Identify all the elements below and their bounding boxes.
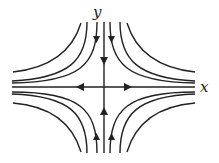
arrow-up-icon xyxy=(108,133,115,140)
trajectory-mid-tl xyxy=(12,22,87,81)
saddle-phase-portrait: y x xyxy=(0,0,219,163)
trajectory-mid-tr xyxy=(120,22,195,81)
trajectory-outer-bl xyxy=(13,103,81,152)
arrow-down-icon xyxy=(108,36,115,43)
y-axis-label: y xyxy=(92,3,102,21)
arrow-down-icon xyxy=(100,57,108,65)
arrow-up-icon xyxy=(100,107,108,115)
x-axis-label: x xyxy=(200,78,209,96)
arrow-left-icon xyxy=(76,83,84,91)
arrow-up-icon xyxy=(93,133,100,140)
arrow-down-icon xyxy=(93,36,100,43)
trajectory-outer-br xyxy=(127,103,195,152)
arrow-right-icon xyxy=(124,83,132,91)
